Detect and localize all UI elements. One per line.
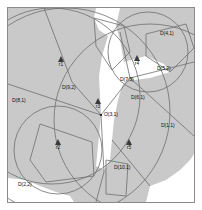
geometry-figure: D(4,1) D(5,2) D(7,3) D(6,1) D(1,1) D(9,2…	[0, 0, 202, 210]
region-label-r3: r3	[91, 105, 105, 110]
center-label-o: O(3,1)	[104, 112, 118, 117]
site-label-d2-2: D(2,2)	[18, 182, 32, 187]
region-label-r2: r2	[51, 146, 65, 151]
site-label-d1-1: D(1,1)	[161, 123, 175, 128]
site-label-d6-1: D(6,1)	[131, 95, 145, 100]
region-label-r5: r5	[122, 146, 136, 151]
site-label-d4-1: D(4,1)	[160, 31, 174, 36]
site-label-d5-2: D(5,2)	[157, 66, 171, 71]
site-label-d10-1: D(10,1)	[114, 165, 130, 170]
site-label-d9-2: D(9,2)	[62, 85, 76, 90]
region-label-r1: r1	[54, 63, 68, 68]
region-label-r4: r4	[130, 62, 144, 67]
site-label-d8-1: D(8,1)	[12, 98, 26, 103]
center-point-dot	[100, 114, 102, 116]
site-label-d7-3: D(7,3)	[120, 77, 134, 82]
